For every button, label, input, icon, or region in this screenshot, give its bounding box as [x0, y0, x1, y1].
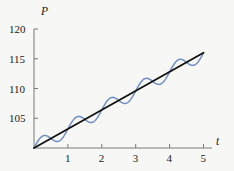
x-axis-tick-label: 3 — [133, 153, 139, 164]
chart-figure: 105110115120 12345 P t — [0, 0, 234, 171]
x-axis-tick-label: 1 — [65, 153, 71, 164]
chart-canvas — [0, 0, 234, 171]
y-axis-tick-label: 115 — [9, 54, 25, 65]
x-axis-label: t — [216, 136, 219, 148]
y-axis-tick-label: 105 — [9, 113, 26, 124]
x-axis-tick-label: 5 — [201, 153, 207, 164]
y-axis-ticks — [34, 29, 38, 118]
x-axis-ticks — [68, 144, 204, 148]
x-axis-tick-label: 4 — [167, 153, 173, 164]
x-axis-tick-label: 2 — [99, 153, 105, 164]
y-axis-tick-label: 120 — [9, 24, 26, 35]
y-axis-label: P — [41, 6, 48, 18]
series-trend-line — [34, 53, 204, 148]
y-axis-tick-label: 110 — [9, 84, 25, 95]
